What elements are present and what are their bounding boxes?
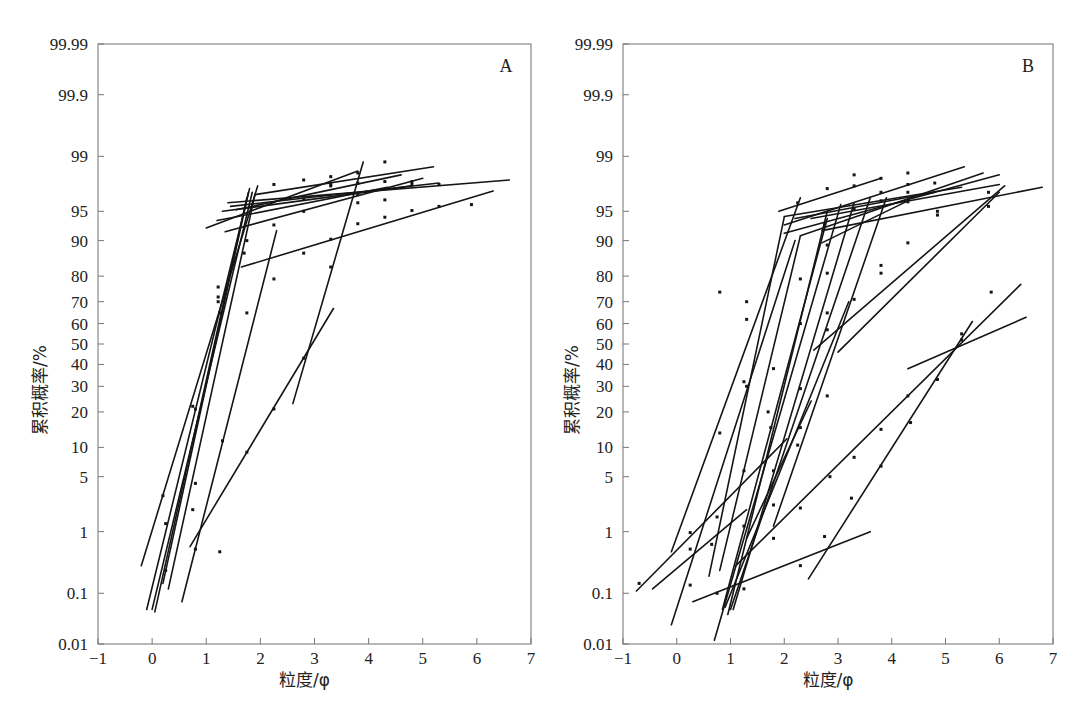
y-tick-label: 90 <box>71 232 88 251</box>
data-point <box>272 183 275 186</box>
y-tick-label: 40 <box>71 355 88 374</box>
x-tick-label: 1 <box>726 649 735 668</box>
series-line-B-3 <box>636 439 787 591</box>
data-point <box>909 421 912 424</box>
y-tick-label: 95 <box>596 202 613 221</box>
data-point <box>936 214 939 217</box>
data-point <box>245 451 248 454</box>
data-point <box>718 431 721 434</box>
data-point <box>302 252 305 255</box>
y-tick-label: 5 <box>605 468 614 487</box>
data-point <box>302 210 305 213</box>
data-point <box>828 475 831 478</box>
data-point <box>689 548 692 551</box>
y-tick-label: 70 <box>596 293 613 312</box>
data-point <box>906 183 909 186</box>
data-point <box>272 277 275 280</box>
data-point <box>164 522 167 525</box>
data-point <box>689 584 692 587</box>
x-tick-label: 5 <box>419 649 428 668</box>
y-tick-label: 0.01 <box>583 635 613 654</box>
data-point <box>302 357 305 360</box>
data-point <box>194 482 197 485</box>
y-tick-label: 10 <box>596 438 613 457</box>
data-point <box>437 183 440 186</box>
data-point <box>826 272 829 275</box>
chart-figure: 0.010.115102030405060708090959999.999.99… <box>0 0 1083 723</box>
data-point <box>191 508 194 511</box>
series-line-A-steep-6 <box>168 195 255 589</box>
data-point <box>745 300 748 303</box>
y-tick-label: 60 <box>71 315 88 334</box>
data-point <box>772 503 775 506</box>
data-point <box>410 183 413 186</box>
data-point <box>880 428 883 431</box>
data-point <box>906 171 909 174</box>
y-tick-label: 0.01 <box>58 635 88 654</box>
data-point <box>470 203 473 206</box>
x-axis-title: 粒度/φ <box>279 670 330 690</box>
data-point <box>329 184 332 187</box>
data-point <box>217 295 220 298</box>
data-point <box>217 286 220 289</box>
data-point <box>772 367 775 370</box>
series-line-B-28 <box>822 201 908 243</box>
data-point <box>302 197 305 200</box>
data-point <box>769 426 772 429</box>
data-point <box>164 569 167 572</box>
data-point <box>410 209 413 212</box>
series-line-B-20 <box>838 192 999 352</box>
series-line-B-18 <box>908 317 1026 368</box>
y-tick-label: 99 <box>596 147 613 166</box>
plot-frame <box>98 44 531 644</box>
x-axis-title: 粒度/φ <box>803 670 854 690</box>
data-point <box>880 272 883 275</box>
series-line-A-fine-2 <box>241 191 493 267</box>
data-point <box>826 244 829 247</box>
data-point <box>853 184 856 187</box>
x-tick-label: −1 <box>614 649 632 668</box>
series-line-B-19 <box>814 186 1005 350</box>
data-point <box>742 380 745 383</box>
data-point <box>880 191 883 194</box>
data-point <box>718 291 721 294</box>
y-tick-label: 0.1 <box>67 584 88 603</box>
data-point <box>383 180 386 183</box>
data-point <box>410 180 413 183</box>
data-point <box>826 311 829 314</box>
data-point <box>745 385 748 388</box>
x-tick-label: 3 <box>834 649 843 668</box>
data-point <box>772 537 775 540</box>
data-point <box>906 394 909 397</box>
x-tick-label: 7 <box>527 649 536 668</box>
data-point <box>329 266 332 269</box>
data-point <box>853 456 856 459</box>
data-point <box>799 322 802 325</box>
series-line-A-upper-7 <box>255 167 434 195</box>
series-line-B-16 <box>808 321 972 578</box>
data-point <box>772 469 775 472</box>
data-point <box>356 193 359 196</box>
y-tick-label: 20 <box>596 403 613 422</box>
data-point <box>853 207 856 210</box>
data-point <box>880 177 883 180</box>
series-line-B-29 <box>779 178 881 211</box>
data-point <box>356 222 359 225</box>
data-point <box>272 408 275 411</box>
plot-frame <box>623 44 1053 644</box>
y-tick-label: 1 <box>80 523 89 542</box>
y-tick-label: 70 <box>71 293 88 312</box>
data-point <box>245 311 248 314</box>
data-point <box>329 175 332 178</box>
y-tick-label: 99.9 <box>58 86 88 105</box>
y-tick-label: 0.1 <box>592 584 613 603</box>
series-line-B-15 <box>693 532 870 602</box>
data-point <box>960 332 963 335</box>
data-point <box>383 198 386 201</box>
data-point <box>191 405 194 408</box>
panel-label: B <box>1022 56 1034 76</box>
x-tick-label: 6 <box>995 649 1004 668</box>
data-point <box>826 187 829 190</box>
data-point <box>329 238 332 241</box>
x-tick-label: 7 <box>1049 649 1058 668</box>
